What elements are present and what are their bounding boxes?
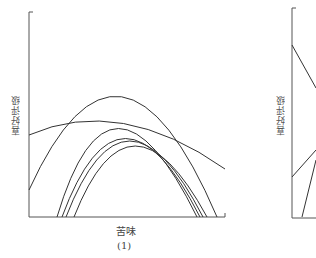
- curve-2: [29, 121, 225, 169]
- panel-2-axes: [292, 8, 316, 218]
- panel-1-caption: (1): [117, 240, 131, 251]
- panel-2-curves: [292, 45, 316, 217]
- panel-1-y-axis-label: 喜好评级: [8, 95, 21, 135]
- panel-2-y-axis-label: 喜好评级: [273, 95, 286, 135]
- panel-1-curves: [29, 96, 225, 217]
- curve-1: [29, 96, 217, 217]
- chart-canvas: [0, 0, 316, 258]
- panel-1-x-axis-label: 苦味: [116, 223, 136, 238]
- panel-1-axes: [29, 12, 225, 217]
